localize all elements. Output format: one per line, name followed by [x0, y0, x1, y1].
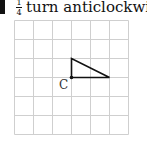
- rotation-grid: [0, 0, 147, 146]
- center-label: C: [59, 78, 68, 92]
- center-point: [70, 76, 74, 80]
